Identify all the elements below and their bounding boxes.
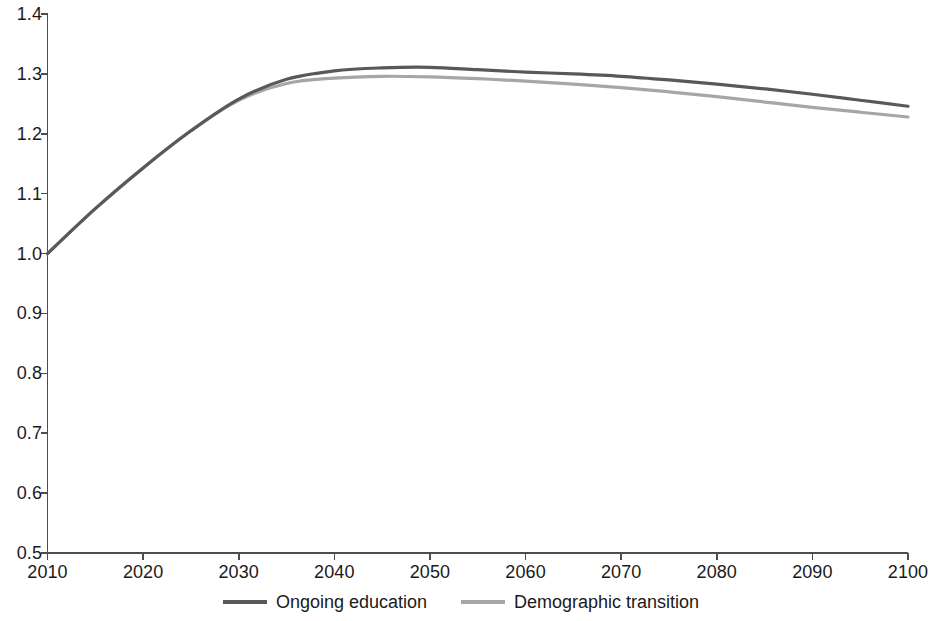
axis-tick-marks: [41, 14, 909, 560]
y-axis-tick-label: 1.0: [0, 245, 42, 263]
y-axis-tick-label-text: 0.9: [2, 304, 42, 322]
y-axis-tick-label-text: 1.2: [2, 125, 42, 143]
x-axis-tick-label: 2090: [772, 563, 852, 581]
y-axis-tick-label-text: 0.8: [2, 364, 42, 382]
legend-color-swatch: [461, 600, 505, 604]
x-axis-tick-label: 2100: [868, 563, 932, 581]
chart-legend: Ongoing educationDemographic transition: [0, 592, 922, 612]
y-axis-tick-label: 1.1: [0, 185, 42, 203]
x-axis-tick-label: 2060: [486, 563, 566, 581]
y-axis-tick-label-text: 0.6: [2, 484, 42, 502]
y-axis-tick-label: 0.5: [0, 544, 42, 562]
legend-item-label: Demographic transition: [514, 592, 699, 612]
legend-item-label: Ongoing education: [276, 592, 427, 612]
y-axis-tick-label-text: 1.1: [2, 185, 42, 203]
y-axis-tick-label: 0.7: [0, 424, 42, 442]
x-axis-tick-label: 2040: [294, 563, 374, 581]
y-axis-tick-label: 0.8: [0, 364, 42, 382]
series-line: [48, 67, 909, 253]
x-axis-tick-label: 2070: [581, 563, 661, 581]
data-series-lines: [48, 67, 909, 253]
series-line: [48, 76, 909, 253]
x-axis-tick-label: 2080: [677, 563, 757, 581]
axis-lines: [48, 14, 909, 553]
y-axis-tick-label: 1.2: [0, 125, 42, 143]
legend-color-swatch: [223, 600, 267, 604]
y-axis-tick-label: 0.6: [0, 484, 42, 502]
x-axis-tick-label: 2010: [8, 563, 88, 581]
y-axis-tick-label: 1.3: [0, 65, 42, 83]
y-axis-tick-label: 0.9: [0, 304, 42, 322]
legend-item: Ongoing education: [223, 592, 427, 612]
legend-item: Demographic transition: [461, 592, 699, 612]
y-axis-tick-label-text: 1.4: [2, 5, 42, 23]
x-axis-tick-label: 2030: [199, 563, 279, 581]
x-axis-tick-label: 2050: [390, 563, 470, 581]
y-axis-tick-label-text: 0.5: [2, 544, 42, 562]
y-axis-tick-label-text: 0.7: [2, 424, 42, 442]
y-axis-tick-label: 1.4: [0, 5, 42, 23]
y-axis-tick-label-text: 1.3: [2, 65, 42, 83]
y-axis-tick-label-text: 1.0: [2, 245, 42, 263]
x-axis-tick-label: 2020: [103, 563, 183, 581]
